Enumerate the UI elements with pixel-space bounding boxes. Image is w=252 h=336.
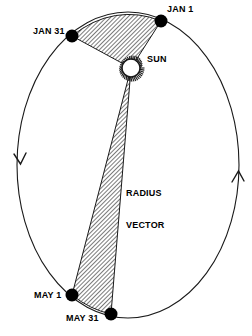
label-may31: MAY 31 [66, 313, 99, 324]
orbit-point-may1 [66, 289, 79, 302]
label-may1: MAY 1 [34, 290, 62, 301]
label-sun: SUN [147, 54, 167, 65]
label-jan31: JAN 31 [33, 26, 65, 37]
label-radius-vector-line1: RADIUS [126, 188, 165, 199]
label-radius-vector-line2: VECTOR [126, 220, 165, 231]
orbit-point-may31 [105, 308, 118, 321]
orbital-diagram-figure: JAN 1 JAN 31 SUN MAY 1 MAY 31 RADIUS VEC… [0, 0, 252, 336]
label-jan1: JAN 1 [167, 4, 194, 15]
arrow-down-icon [14, 153, 26, 164]
may-swept-sector [72, 68, 131, 314]
orbit-point-jan31 [66, 30, 79, 43]
label-radius-vector: RADIUS VECTOR [126, 167, 165, 251]
orbit-point-jan1 [155, 15, 168, 28]
